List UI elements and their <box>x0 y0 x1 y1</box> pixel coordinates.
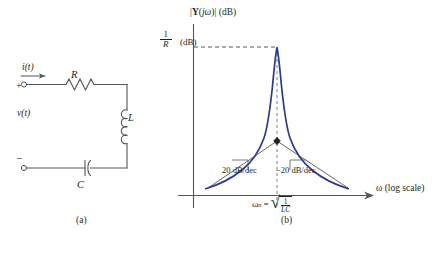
figure-container: i(t) R L C v(t) + − (a) |Y(jω)| (dB) 1 R… <box>0 0 442 253</box>
resistor-icon <box>66 79 94 90</box>
resonance-frequency-label: ωn = √ 1 LC <box>252 196 292 214</box>
circuit-diagram <box>21 73 127 175</box>
inductor-icon <box>121 110 127 144</box>
voltage-label: v(t) <box>17 109 30 119</box>
x-axis-label: ω (log scale) <box>376 184 424 194</box>
current-arrow-icon <box>21 73 45 79</box>
panel-b-caption: (b) <box>281 216 292 226</box>
asymptote-breakpoint-marker <box>274 137 281 145</box>
terminal-minus-label: − <box>16 153 22 164</box>
resistor-label: R <box>71 70 77 81</box>
title-symbol-y: Y <box>192 7 199 17</box>
title-bar-right: | <box>214 7 216 17</box>
radicand-numerator: 1 <box>281 198 290 206</box>
square-root-icon: √ 1 LC <box>271 196 293 214</box>
plot-area <box>178 24 374 208</box>
panel-a-caption: (a) <box>76 216 87 226</box>
peak-level-fraction: 1 R <box>160 30 172 49</box>
resonance-equals: = <box>264 200 269 209</box>
slope-annotation-left: 20 dB/dec <box>222 166 257 175</box>
terminal-plus-label: + <box>16 81 22 91</box>
capacitor-label: C <box>77 180 84 191</box>
resonance-subscript: n <box>258 202 261 209</box>
current-label: i(t) <box>22 63 34 73</box>
radicand-denominator: LC <box>281 206 290 214</box>
inductor-label: L <box>128 113 134 124</box>
terminal-node-icon-top <box>21 82 26 87</box>
peak-level-numerator: 1 <box>160 30 172 39</box>
peak-level-unit: (dB) <box>180 38 197 47</box>
peak-level-denominator: R <box>160 40 172 49</box>
radicand: 1 LC <box>279 196 292 214</box>
title-unit: (dB) <box>219 7 236 17</box>
slope-annotation-right: −20 dB/dec <box>276 166 316 175</box>
plot-title: |Y(jω)| (dB) <box>190 8 236 18</box>
terminal-node-icon-bottom <box>21 165 26 170</box>
figure-svg <box>0 0 442 253</box>
